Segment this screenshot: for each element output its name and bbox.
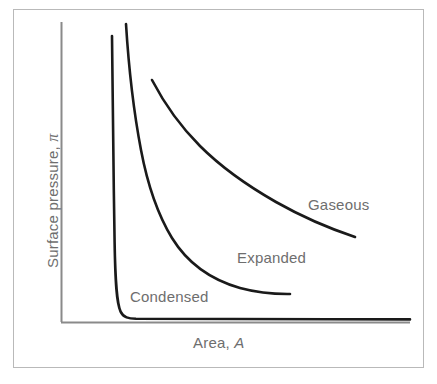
curves-group (112, 24, 410, 319)
plot-canvas (0, 0, 437, 384)
curve-label-gaseous: Gaseous (308, 196, 369, 213)
y-axis-label-symbol: π (44, 134, 61, 142)
curve-gaseous (152, 80, 355, 237)
x-axis-label: Area, A (193, 334, 244, 351)
curve-label-expanded: Expanded (237, 249, 306, 266)
curve-label-condensed: Condensed (130, 288, 209, 305)
figure-root: Gaseous Expanded Condensed Area, A Surfa… (0, 0, 437, 384)
x-axis-label-symbol: A (234, 334, 244, 351)
y-axis-label: Surface pressure, π (44, 134, 62, 268)
x-axis-label-text: Area, (193, 334, 234, 351)
curve-condensed (112, 36, 410, 319)
y-axis-label-text: Surface pressure, (44, 142, 61, 268)
